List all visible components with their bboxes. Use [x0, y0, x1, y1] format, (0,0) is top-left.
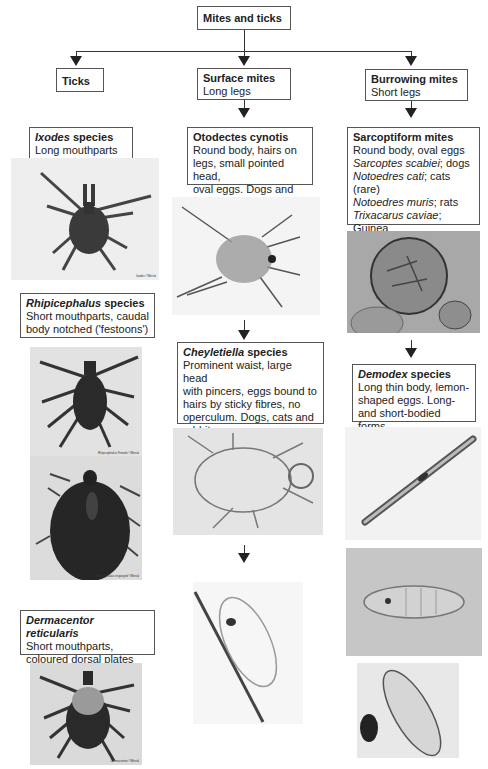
description-line: Sarcoptes scabiei; dogs [353, 157, 474, 170]
rhipicephalus-box: Rhipicephalus species Short mouthparts, … [20, 293, 155, 338]
description-line: shaped eggs. Long- [358, 394, 470, 407]
egg-illustration [357, 663, 459, 758]
species-name: Cheyletiella [183, 346, 244, 358]
italic-name: Sarcoptes scabiei [353, 157, 440, 169]
arrow-down-icon [70, 56, 82, 66]
category-title: Burrowing mites [371, 73, 462, 86]
dermacentor-box: Dermacentor reticularis Short mouthparts… [20, 610, 155, 655]
sarcoptiform-box: Sarcoptiform mites Round body, oval eggs… [347, 127, 480, 225]
description-line: Round body, oval eggs [353, 144, 474, 157]
species-name: Sarcoptiform mites [353, 131, 474, 144]
arrow-down-icon [405, 348, 417, 358]
species-suffix: species [244, 346, 287, 358]
rhipicephalus-photo: Rhipicephalus Female ©Merial [30, 347, 142, 457]
species-name: Rhipicephalus [26, 297, 101, 309]
category-title: Ticks [62, 75, 98, 88]
category-ticks: Ticks [56, 68, 104, 92]
photo-caption: Ixodes ©Merial [136, 274, 156, 278]
description-line: Long mouthparts [35, 144, 127, 157]
description-line: operculum. Dogs, cats and [183, 411, 318, 424]
species-suffix: species [408, 368, 451, 380]
demodex-box: Demodex species Long thin body, lemon- s… [352, 364, 476, 422]
demodex-illustration [345, 427, 481, 540]
italic-name: Trixacarus caviae [353, 209, 438, 221]
cheyletiella-egg-photo [193, 582, 303, 724]
mite-illustration [173, 428, 323, 535]
ixodes-photo: Ixodes ©Merial [11, 158, 159, 280]
description-line: Long thin body, lemon- [358, 381, 470, 394]
arrow-down-icon [238, 108, 250, 118]
line-text: Round body, oval eggs [353, 144, 465, 156]
egg-on-hair-illustration [193, 582, 303, 724]
species-name: Otodectes cynotis [193, 131, 307, 144]
tick-illustration [30, 456, 142, 580]
species-name: Dermacentor reticularis [26, 614, 94, 639]
demodex-egg-photo [357, 663, 459, 758]
category-subtitle: Short legs [371, 86, 462, 99]
species-suffix: species [101, 297, 144, 309]
description-line: legs, small pointed head, [193, 157, 307, 183]
tick-illustration [30, 663, 142, 765]
italic-name: Notoedres cati [353, 170, 424, 182]
mite-illustration [172, 197, 320, 315]
species-name: Demodex [358, 368, 408, 380]
photo-caption: Rhipicephalus Female ©Merial [98, 451, 139, 455]
mite-illustration [347, 231, 480, 333]
arrow-down-icon [405, 108, 417, 118]
photo-caption: Rhipicephalus engorged ©Merial [95, 574, 139, 578]
rhipicephalus-engorged-photo: Rhipicephalus engorged ©Merial [30, 456, 142, 580]
category-title: Surface mites [203, 72, 285, 85]
root-box: Mites and ticks [197, 6, 291, 30]
arrow-down-icon [238, 56, 250, 66]
description-line: Prominent waist, large head [183, 359, 318, 385]
dermacentor-photo: Dermacentor ©Merial [30, 663, 142, 765]
category-surface-mites: Surface mites Long legs [197, 68, 291, 100]
description-line: with pincers, eggs bound to [183, 385, 318, 398]
category-burrowing-mites: Burrowing mites Short legs [365, 69, 468, 101]
demodex-short-photo [346, 548, 482, 656]
ixodes-box: Ixodes species Long mouthparts [29, 127, 133, 159]
species-name: Ixodes [35, 131, 70, 143]
line-text: ; rats [434, 196, 458, 208]
italic-name: Notoedres muris [353, 196, 434, 208]
description-line: Short mouthparts, [26, 640, 149, 653]
description-line: body notched ('festoons') [26, 323, 149, 336]
line-text: ; dogs [440, 157, 470, 169]
cheyletiella-box: Cheyletiella species Prominent waist, la… [177, 342, 324, 424]
demodex-illustration [346, 548, 482, 656]
description-line: hairs by sticky fibres, no [183, 398, 318, 411]
otodectes-photo [172, 197, 320, 315]
sarcoptes-photo [347, 231, 480, 333]
description-line: Notoedres muris; rats [353, 196, 474, 209]
tick-illustration [30, 347, 142, 457]
category-subtitle: Long legs [203, 85, 285, 98]
description-line: Round body, hairs on [193, 144, 307, 157]
root-connector [244, 30, 245, 52]
root-title: Mites and ticks [203, 12, 285, 25]
tick-illustration [11, 158, 159, 280]
arrow-down-icon [238, 553, 250, 563]
description-line: Notoedres cati; cats (rare) [353, 170, 474, 196]
description-line: Short mouthparts, caudal [26, 310, 149, 323]
arrow-down-icon [238, 330, 250, 340]
photo-caption: Dermacentor ©Merial [110, 759, 139, 763]
cheyletiella-photo [173, 428, 323, 535]
arrow-down-icon [405, 56, 417, 66]
otodectes-box: Otodectes cynotis Round body, hairs on l… [187, 127, 313, 185]
species-suffix: species [70, 131, 113, 143]
demodex-long-photo [345, 427, 481, 540]
